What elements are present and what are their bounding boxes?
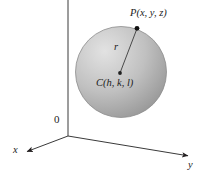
radius-label: r — [114, 42, 118, 53]
point-p-label: P(x, y, z) — [130, 8, 167, 19]
center-label: C(h, k, l) — [96, 78, 133, 89]
sphere-diagram: P(x, y, z) r C(h, k, l) 0 x y — [0, 0, 201, 176]
x-axis-label: x — [13, 145, 18, 156]
y-axis-line — [68, 136, 188, 156]
y-axis-label: y — [188, 160, 193, 171]
point-p-dot — [135, 26, 140, 31]
center-point-dot — [118, 71, 122, 75]
x-axis-line — [27, 136, 68, 152]
origin-label: 0 — [54, 114, 60, 125]
